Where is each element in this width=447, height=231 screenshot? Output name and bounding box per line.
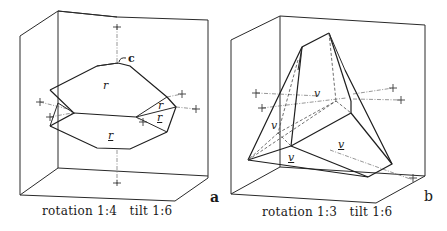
- face-label-r-right-upper: r: [158, 100, 163, 111]
- face-label-r-bottom: r: [108, 130, 113, 141]
- crystal-figure: c r r r r v v v v a b rotation 1:4 tilt …: [0, 0, 447, 231]
- face-label-v-bottom: v: [288, 152, 294, 163]
- panel-b-drawing: [0, 0, 447, 231]
- face-label-c: c: [128, 53, 135, 64]
- panel-b-crystal: [248, 33, 392, 177]
- panel-letter-a: a: [210, 189, 219, 205]
- face-label-r-top: r: [103, 80, 108, 91]
- panel-letter-b: b: [424, 188, 433, 204]
- caption-panel-a: rotation 1:4 tilt 1:6: [42, 204, 172, 218]
- panel-b-box: [231, 16, 425, 203]
- face-label-v-left: v: [271, 120, 277, 131]
- caption-panel-b: rotation 1:3 tilt 1:6: [262, 205, 392, 219]
- face-label-v-right-lower: v: [338, 139, 344, 150]
- face-label-r-right-lower: r: [157, 112, 162, 123]
- face-label-v-center: v: [314, 88, 320, 99]
